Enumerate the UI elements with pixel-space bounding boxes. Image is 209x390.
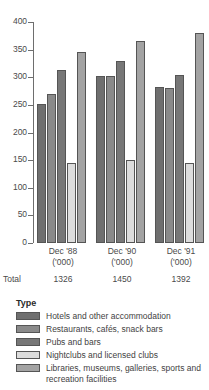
y-axis-tick <box>28 188 33 189</box>
y-axis-tick-label: 50 <box>1 210 27 219</box>
legend-item: Pubs and bars <box>0 337 209 349</box>
x-axis-group-label: Dec '91('000) <box>153 246 209 268</box>
y-axis-tick <box>28 105 33 106</box>
legend-label: Hotels and other accommodation <box>46 311 209 322</box>
bar <box>195 33 204 243</box>
y-axis-tick-label: 250 <box>1 100 27 109</box>
bar <box>47 94 56 243</box>
x-axis-unit-label: ('000) <box>35 257 91 268</box>
y-axis-tick <box>28 160 33 161</box>
bar <box>57 70 66 243</box>
legend-swatch <box>16 325 40 333</box>
y-axis-tick-label: 300 <box>1 72 27 81</box>
bar <box>77 52 86 243</box>
plot-area <box>34 22 206 243</box>
legend-item: Restaurants, cafés, snack bars <box>0 324 209 336</box>
plot-wrapper: 050100150200250300350400 <box>0 0 209 250</box>
bar <box>126 160 135 243</box>
y-axis-tick <box>28 77 33 78</box>
total-value: 1326 <box>35 274 91 285</box>
bar-chart-figure: 050100150200250300350400 Dec '88('000)De… <box>0 0 209 300</box>
y-axis-tick-label-holder: 250 <box>0 100 27 109</box>
x-axis-group-label: Dec '90('000) <box>94 246 150 268</box>
y-axis-tick <box>28 243 33 244</box>
bar <box>136 41 145 243</box>
bar-group <box>155 22 207 243</box>
y-axis-tick <box>28 22 33 23</box>
legend-label: Pubs and bars <box>46 337 209 348</box>
bar <box>175 75 184 244</box>
legend-swatch <box>16 312 40 320</box>
x-axis-unit-label: ('000) <box>94 257 150 268</box>
y-axis-tick-label: 200 <box>1 128 27 137</box>
bar <box>185 163 194 243</box>
y-axis-tick <box>28 133 33 134</box>
y-axis-tick-label-holder: 200 <box>0 128 27 137</box>
legend-item: Nightclubs and licensed clubs <box>0 350 209 362</box>
legend-title: Type <box>16 298 36 309</box>
bar <box>37 104 46 243</box>
y-axis-tick-label: 0 <box>1 238 27 247</box>
total-value: 1392 <box>153 274 209 285</box>
y-axis-tick-label: 150 <box>1 155 27 164</box>
legend-label: Nightclubs and licensed clubs <box>46 350 209 361</box>
y-axis-tick-label-holder: 50 <box>0 210 27 219</box>
legend-item: Libraries, museums, galleries, sports an… <box>0 363 209 384</box>
y-axis-tick <box>28 50 33 51</box>
chart-legend: Type Hotels and other accommodationResta… <box>0 298 209 390</box>
x-axis-labels: Dec '88('000)Dec '90('000)Dec '91('000) <box>34 246 206 272</box>
legend-label: Libraries, museums, galleries, sports an… <box>46 363 209 384</box>
legend-swatch <box>16 338 40 346</box>
y-axis-tick-label-holder: 350 <box>0 45 27 54</box>
legend-list: Hotels and other accommodationRestaurant… <box>0 311 209 385</box>
y-axis-tick-label-holder: 150 <box>0 155 27 164</box>
legend-swatch <box>16 364 40 372</box>
x-axis-period-label: Dec '91 <box>153 246 209 257</box>
bar <box>116 61 125 243</box>
x-axis-period-label: Dec '88 <box>35 246 91 257</box>
y-axis-tick-label-holder: 300 <box>0 72 27 81</box>
bar <box>96 76 105 243</box>
legend-label: Restaurants, cafés, snack bars <box>46 324 209 335</box>
bar <box>155 87 164 243</box>
totals-label: Total <box>3 274 21 285</box>
x-axis-group-label: Dec '88('000) <box>35 246 91 268</box>
bar-group <box>96 22 148 243</box>
legend-swatch <box>16 351 40 359</box>
bar <box>106 76 115 243</box>
legend-item: Hotels and other accommodation <box>0 311 209 323</box>
bar <box>165 88 174 243</box>
y-axis-tick-label: 350 <box>1 45 27 54</box>
bar <box>67 163 76 243</box>
y-axis-tick <box>28 215 33 216</box>
totals-row: Total 132614501392 <box>0 274 209 288</box>
y-axis-tick-label-holder: 100 <box>0 183 27 192</box>
y-axis-tick-label: 400 <box>1 17 27 26</box>
total-value: 1450 <box>94 274 150 285</box>
bar-group <box>37 22 89 243</box>
y-axis-tick-label-holder: 0 <box>0 238 27 247</box>
x-axis-period-label: Dec '90 <box>94 246 150 257</box>
x-axis-unit-label: ('000) <box>153 257 209 268</box>
y-axis-tick-label-holder: 400 <box>0 17 27 26</box>
y-axis-tick-label: 100 <box>1 183 27 192</box>
